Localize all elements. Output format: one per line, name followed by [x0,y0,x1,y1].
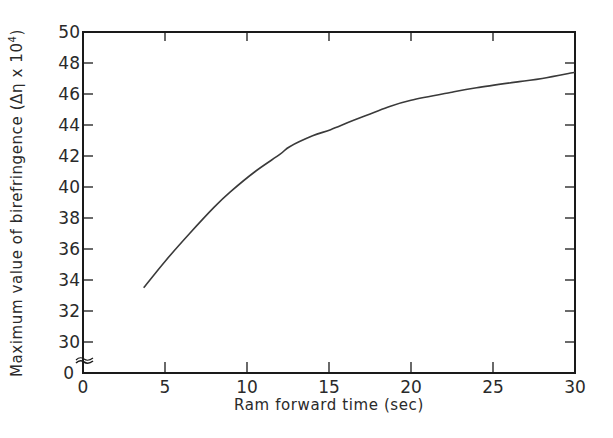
y-axis-ticks: 3032343638404244464850 [58,22,575,352]
y-tick-label: 40 [58,177,80,197]
line-chart: 051015202530 3032343638404244464850 0 Ra… [0,0,613,438]
x-axis-ticks: 051015202530 [78,32,586,397]
y-axis-title-main: Maximum value of birefringence (Δη x 10 [8,42,26,377]
y-origin-label: 0 [63,363,74,383]
y-axis-break-mark [76,358,93,364]
x-tick-label: 30 [564,377,586,397]
y-axis-title-superscript: 4 [7,35,18,42]
y-axis-title-close: ) [8,29,26,35]
x-tick-label: 5 [160,377,171,397]
y-tick-label: 34 [58,270,80,290]
plot-border [83,32,575,373]
y-axis-title: Maximum value of birefringence (Δη x 104… [7,29,26,377]
x-tick-label: 25 [482,377,504,397]
y-tick-label: 30 [58,332,80,352]
y-tick-label: 32 [58,301,80,321]
y-tick-label: 48 [58,53,80,73]
series-layer [144,72,575,287]
x-tick-label: 20 [400,377,422,397]
y-tick-label: 50 [58,22,80,42]
data-curve [144,72,575,287]
y-tick-label: 36 [58,239,80,259]
x-tick-label: 15 [318,377,340,397]
y-tick-label: 44 [58,115,80,135]
y-tick-label: 38 [58,208,80,228]
y-tick-label: 42 [58,146,80,166]
x-tick-label: 10 [236,377,258,397]
y-tick-label: 46 [58,84,80,104]
x-axis-title: Ram forward time (sec) [234,396,424,414]
x-tick-label: 0 [78,377,89,397]
plot-frame [83,32,575,373]
